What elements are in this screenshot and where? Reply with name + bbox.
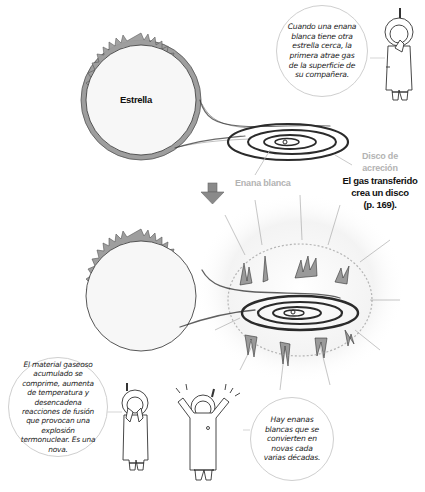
accretion-disk-label-line1: Disco de xyxy=(355,150,405,162)
down-arrow-icon xyxy=(201,183,224,204)
caption-line3: (p. 169). xyxy=(335,199,425,211)
white-dwarf-label: Enana blanca xyxy=(235,178,291,188)
astronaut-cheering xyxy=(176,384,250,480)
speech-text-left: El material gaseoso acumulado se comprim… xyxy=(19,360,97,454)
disk-leader xyxy=(335,155,352,165)
accretion-disk-label: Disco de acreción xyxy=(355,150,405,174)
speech-text-right: Hay enanas blancas que se convierten en … xyxy=(261,415,323,463)
astronaut-thinking-top xyxy=(370,8,413,100)
white-dwarf-leader xyxy=(255,150,270,175)
astronaut-worried xyxy=(107,383,148,470)
accretion-disk-label-line2: acreción xyxy=(355,162,405,174)
speech-bubble-top: Cuando una enana blanca tiene otra estre… xyxy=(276,5,368,97)
speech-bubble-left: El material gaseoso acumulado se comprim… xyxy=(8,357,108,457)
star-label: Estrella xyxy=(120,94,152,105)
caption-line1: El gas transferido xyxy=(335,175,425,187)
caption-line2: crea un disco xyxy=(335,187,425,199)
speech-text-top: Cuando una enana blanca tiene otra estre… xyxy=(285,22,359,80)
speech-bubble-right: Hay enanas blancas que se convierten en … xyxy=(250,397,334,481)
gas-disk-caption: El gas transferido crea un disco (p. 169… xyxy=(335,175,425,211)
star-bottom-icon xyxy=(86,229,196,351)
accretion-disk-top xyxy=(228,124,348,160)
